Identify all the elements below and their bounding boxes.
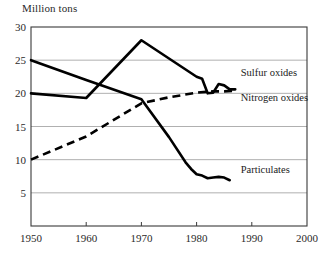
y-tick-labels-group: 51015202530 bbox=[15, 21, 27, 199]
x-tick-label-1950: 1950 bbox=[20, 232, 43, 244]
y-tick-label-20: 20 bbox=[15, 87, 27, 99]
particulates-label: Particulates bbox=[241, 164, 290, 175]
series-line-sulfur-oxides bbox=[31, 40, 235, 98]
x-tick-marks-group bbox=[86, 222, 252, 226]
chart-svg: 51015202530 195019601970198019902000 Sul… bbox=[0, 0, 332, 263]
chart-figure: Million tons 51015202530 195019601970198… bbox=[0, 0, 332, 263]
sulfur-oxides-label: Sulfur oxides bbox=[241, 67, 297, 78]
x-tick-labels-group: 195019601970198019902000 bbox=[20, 232, 319, 244]
series-line-nitrogen-oxides bbox=[31, 91, 235, 160]
y-tick-label-30: 30 bbox=[15, 21, 27, 33]
plot-area: 51015202530 195019601970198019902000 Sul… bbox=[0, 0, 332, 263]
x-tick-label-2000: 2000 bbox=[296, 232, 319, 244]
data-series-group bbox=[31, 40, 235, 180]
series-annotations-group: Sulfur oxidesNitrogen oxidesParticulates bbox=[241, 67, 308, 175]
x-tick-label-1980: 1980 bbox=[186, 232, 209, 244]
y-tick-label-25: 25 bbox=[15, 54, 27, 66]
y-tick-label-5: 5 bbox=[21, 187, 27, 199]
x-tick-label-1960: 1960 bbox=[75, 232, 98, 244]
x-tick-label-1990: 1990 bbox=[241, 232, 264, 244]
x-tick-label-1970: 1970 bbox=[130, 232, 153, 244]
y-tick-label-10: 10 bbox=[15, 154, 27, 166]
y-tick-label-15: 15 bbox=[15, 121, 27, 133]
nitrogen-oxides-label: Nitrogen oxides bbox=[241, 92, 308, 103]
